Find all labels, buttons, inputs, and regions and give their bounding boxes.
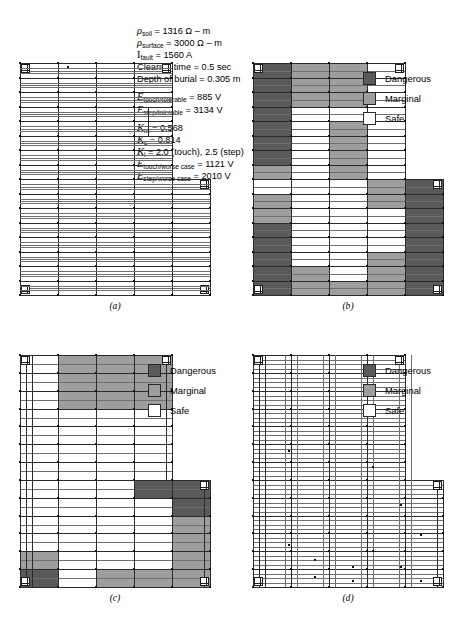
grid-node (290, 586, 292, 588)
grid-node (95, 408, 97, 410)
grid-line-horizontal (253, 194, 443, 195)
grid-node (209, 515, 211, 517)
grid-node (290, 532, 292, 534)
grid-node (290, 550, 292, 552)
grid-node (95, 479, 97, 481)
grid-node (209, 294, 211, 296)
grid-node (95, 251, 97, 253)
grid-line-horizontal (253, 533, 443, 534)
panel-a-caption: (a) (85, 300, 145, 311)
grid-node (95, 568, 97, 570)
grid-node (328, 550, 330, 552)
ground-rod-marker (21, 356, 30, 365)
grid-node (328, 164, 330, 166)
grid-node (328, 497, 330, 499)
grid-node (19, 568, 21, 570)
grid-node (57, 532, 59, 534)
grid-line-horizontal (253, 529, 443, 530)
grid-node (95, 77, 97, 79)
grid-node (404, 461, 406, 463)
grid-node (57, 294, 59, 296)
grid-node (133, 515, 135, 517)
grid-node (366, 443, 368, 445)
grid-node (57, 372, 59, 374)
grid-node (404, 443, 406, 445)
grid-line-horizontal (253, 252, 443, 253)
grid-node (57, 497, 59, 499)
grid-node (366, 164, 368, 166)
grid-node (404, 106, 406, 108)
grid-line-vertical (32, 355, 33, 587)
grid-node (352, 580, 354, 582)
grid-line-horizontal (253, 525, 443, 526)
grid-line-vertical (148, 107, 149, 136)
grid-node (290, 354, 292, 356)
grid-line-vertical (335, 355, 336, 587)
grid-node (95, 62, 97, 64)
grid-node (366, 497, 368, 499)
grid-node (133, 164, 135, 166)
grid-node (252, 443, 254, 445)
grid-line-horizontal (20, 126, 172, 127)
grid-line-horizontal (20, 201, 210, 202)
grid-node (400, 504, 402, 506)
grid-node (133, 461, 135, 463)
figure-root: ρsoil = 1316 Ω – m ρsurface = 3000 Ω – m… (0, 0, 475, 625)
grid-line-horizontal (20, 179, 210, 180)
grid-node (328, 62, 330, 64)
grid-line-horizontal (253, 560, 443, 561)
grid-node (252, 91, 254, 93)
grid-node (366, 550, 368, 552)
grid-node (366, 62, 368, 64)
legend-label: Marginal (170, 384, 206, 397)
grid-node (95, 178, 97, 180)
grid-line-horizontal (253, 516, 443, 517)
grid-node (57, 149, 59, 151)
grid-line-horizontal (253, 551, 443, 552)
grid-node (328, 568, 330, 570)
grid-line-horizontal (20, 533, 210, 534)
grid-node (171, 77, 173, 79)
grid-node (171, 178, 173, 180)
grid-node (19, 193, 21, 195)
grid-node (19, 77, 21, 79)
legend-swatch-safe (363, 112, 376, 125)
grid-node (366, 294, 368, 296)
grid-node (57, 568, 59, 570)
grid-node (404, 149, 406, 151)
grid-node (366, 425, 368, 427)
legend-label: Safe (385, 404, 404, 417)
grid-node (19, 408, 21, 410)
grid-line-horizontal (20, 199, 210, 200)
grid-line-horizontal (253, 565, 443, 566)
grid-node (95, 425, 97, 427)
grid-node (19, 120, 21, 122)
grid-line-horizontal (20, 208, 210, 209)
grid-node (133, 372, 135, 374)
grid-node (19, 532, 21, 534)
grid-node (19, 135, 21, 137)
grid-line-horizontal (20, 542, 210, 543)
legend-swatch-dangerous (363, 72, 376, 85)
grid-node (19, 91, 21, 93)
grid-node (57, 251, 59, 253)
grid-line-horizontal (20, 578, 210, 579)
grid-node (252, 164, 254, 166)
grid-node (290, 135, 292, 137)
grid-node (290, 164, 292, 166)
grid-line-horizontal (253, 503, 443, 504)
grid-line-horizontal (20, 223, 210, 224)
grid-node (95, 265, 97, 267)
grid-node (19, 164, 21, 166)
grid-node (252, 550, 254, 552)
grid-node (442, 280, 444, 282)
grid-node (95, 222, 97, 224)
grid-node (171, 164, 173, 166)
grid-node (328, 222, 330, 224)
grid-node (366, 222, 368, 224)
grid-node (404, 135, 406, 137)
grid-node (290, 390, 292, 392)
grid-node (19, 106, 21, 108)
legend-label: Dangerous (170, 364, 216, 377)
grid-line-horizontal (253, 208, 443, 209)
